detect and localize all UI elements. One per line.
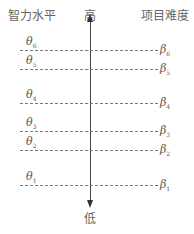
level-line: [20, 69, 158, 70]
beta-label: β5: [160, 62, 170, 76]
beta-label: β6: [160, 43, 170, 57]
arrow-down-icon: [87, 200, 93, 208]
theta-label: θ3: [26, 116, 36, 130]
theta-label: θ2: [26, 135, 36, 149]
level-line: [20, 185, 158, 186]
level-line: [20, 103, 158, 104]
beta-label: β1: [160, 178, 170, 192]
low-label: 低: [84, 209, 96, 226]
theta-label: θ1: [26, 170, 36, 184]
level-line: [20, 131, 158, 132]
ability-level-heading: 智力水平: [8, 6, 56, 23]
level-line: [20, 150, 158, 151]
theta-label: θ4: [26, 88, 36, 102]
beta-label: β3: [160, 124, 170, 138]
arrow-up-icon: [87, 14, 93, 22]
level-line: [20, 50, 158, 51]
item-difficulty-heading: 项目难度: [141, 6, 189, 23]
beta-label: β2: [160, 143, 170, 157]
beta-label: β4: [160, 96, 170, 110]
theta-label: θ5: [26, 54, 36, 68]
vertical-axis: [90, 20, 91, 205]
theta-label: θ6: [26, 35, 36, 49]
